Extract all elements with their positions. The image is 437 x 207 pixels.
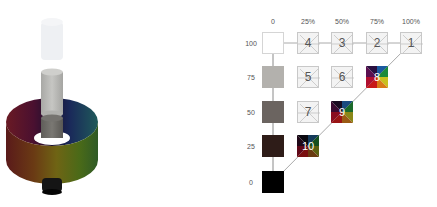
row-label-100: 100	[245, 40, 257, 47]
column-label-100: 100%	[402, 18, 420, 25]
gray-swatch-0	[262, 171, 284, 193]
gray-swatch-100	[262, 32, 284, 54]
cell-number: 5	[298, 67, 318, 87]
cell-9: 9	[331, 101, 353, 123]
row-label-50: 50	[247, 109, 255, 116]
gray-swatch-50	[262, 101, 284, 123]
row-label-0: 0	[249, 179, 253, 186]
column-label-0: 0	[271, 18, 275, 25]
cell-3: 3	[331, 32, 353, 54]
row-label-25: 25	[247, 143, 255, 150]
cell-2: 2	[366, 32, 388, 54]
cell-4: 4	[297, 32, 319, 54]
column-label-75: 75%	[370, 18, 384, 25]
cell-1: 1	[400, 32, 422, 54]
cell-7: 7	[297, 101, 319, 123]
row-label-75: 75	[247, 74, 255, 81]
cell-number: 8	[366, 66, 388, 88]
gray-swatch-25	[262, 135, 284, 157]
cell-number: 10	[297, 135, 319, 157]
cell-number: 4	[298, 33, 318, 53]
gray-swatch-75	[262, 66, 284, 88]
cell-number: 1	[401, 33, 421, 53]
cell-8: 8	[366, 66, 388, 88]
cell-number: 3	[332, 33, 352, 53]
cell-10: 10	[297, 135, 319, 157]
cell-6: 6	[331, 66, 353, 88]
cell-5: 5	[297, 66, 319, 88]
cell-number: 9	[331, 101, 353, 123]
cell-number: 2	[367, 33, 387, 53]
cell-number: 7	[298, 102, 318, 122]
cell-number: 6	[332, 67, 352, 87]
column-label-50: 50%	[335, 18, 349, 25]
column-label-25: 25%	[301, 18, 315, 25]
